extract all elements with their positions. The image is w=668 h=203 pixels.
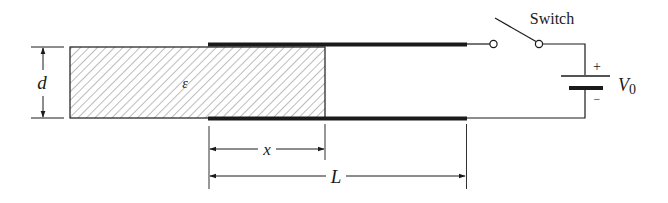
voltage-label: V0: [618, 75, 636, 97]
insertion-label: x: [262, 140, 271, 159]
switch-label: Switch: [530, 10, 574, 27]
battery-plus-sign: +: [593, 59, 601, 74]
separation-dimension: d: [31, 47, 64, 118]
separation-label: d: [37, 72, 47, 93]
insertion-dimension: x: [210, 140, 324, 159]
dielectric-slab: [70, 47, 325, 118]
voltage-subscript: 0: [629, 82, 636, 97]
top-plate: [208, 43, 467, 47]
capacitor-diagram: ε d x L Switch +: [0, 0, 668, 203]
switch-terminal-right: [535, 40, 542, 47]
permittivity-label: ε: [182, 76, 188, 91]
battery: + − V0: [561, 59, 636, 106]
circuit-wires: [467, 44, 585, 118]
length-dimension: L: [210, 166, 465, 187]
length-label: L: [330, 166, 342, 187]
switch: Switch: [490, 10, 574, 48]
switch-terminal-left: [490, 40, 497, 47]
battery-minus-sign: −: [594, 92, 601, 106]
bottom-plate: [208, 117, 467, 121]
